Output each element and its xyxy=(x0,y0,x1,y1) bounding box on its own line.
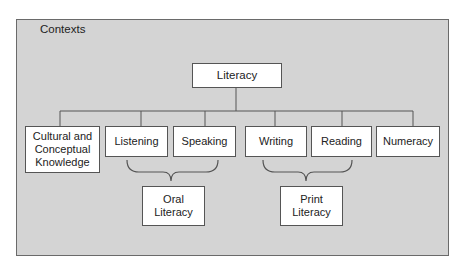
speaking-label: Speaking xyxy=(182,135,228,148)
brace-oral xyxy=(127,160,218,181)
reading-label: Reading xyxy=(321,135,362,148)
writing-label: Writing xyxy=(259,135,293,148)
literacy-root-box: Literacy xyxy=(192,63,282,88)
writing-box: Writing xyxy=(245,126,307,157)
print-literacy-label: Print Literacy xyxy=(291,193,332,219)
reading-box: Reading xyxy=(311,126,372,157)
cultural-knowledge-label: Cultural and Conceptual Knowledge xyxy=(29,130,96,169)
listening-label: Listening xyxy=(114,135,158,148)
brace-print xyxy=(263,160,352,181)
print-literacy-box: Print Literacy xyxy=(280,186,343,226)
numeracy-label: Numeracy xyxy=(383,135,433,148)
numeracy-box: Numeracy xyxy=(376,126,440,157)
literacy-root-label: Literacy xyxy=(217,69,257,82)
oral-literacy-box: Oral Literacy xyxy=(142,186,205,226)
cultural-knowledge-box: Cultural and Conceptual Knowledge xyxy=(25,126,100,173)
speaking-box: Speaking xyxy=(173,126,236,157)
oral-literacy-label: Oral Literacy xyxy=(153,193,194,219)
listening-box: Listening xyxy=(105,126,168,157)
